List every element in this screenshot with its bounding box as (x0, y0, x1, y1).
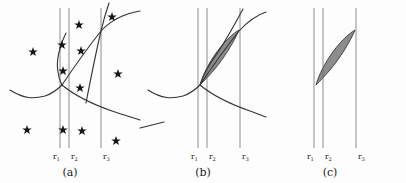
star-point (28, 47, 38, 56)
three-panel-figure: r1 r2 r3 (a) r (0, 0, 406, 183)
star-point (22, 125, 32, 134)
panel-c-canvas: r1 r2 r3 (266, 0, 406, 183)
label-r1: r1 (307, 152, 314, 162)
star-point (74, 20, 84, 29)
star-point (113, 69, 123, 78)
star-point (75, 83, 85, 92)
panel-b: r1 r2 r3 (b) (140, 0, 266, 183)
panel-a: r1 r2 r3 (a) (0, 0, 140, 183)
label-r2: r2 (325, 152, 332, 162)
star-point (77, 126, 87, 135)
label-r1: r1 (53, 152, 60, 162)
label-r2: r2 (71, 152, 78, 162)
curve-left-fragment (140, 122, 164, 128)
label-r3: r3 (103, 152, 110, 162)
shaded-lens-region (316, 30, 355, 85)
panel-c-caption: (c) (260, 166, 400, 179)
label-r3: r3 (242, 152, 249, 162)
star-point (57, 40, 67, 49)
label-r3: r3 (358, 152, 365, 162)
curve-steep-rising (86, 3, 109, 103)
panel-c: r1 r2 r3 (c) (266, 0, 406, 183)
curve-upper-descending (57, 33, 140, 120)
panel-b-caption: (b) (140, 166, 266, 179)
star-field (22, 12, 123, 145)
panel-a-caption: (a) (0, 166, 140, 179)
panel-a-canvas: r1 r2 r3 (0, 0, 140, 183)
star-point (111, 136, 121, 145)
panel-b-canvas: r1 r2 r3 (140, 0, 266, 183)
label-r2: r2 (209, 152, 216, 162)
label-r1: r1 (191, 152, 198, 162)
